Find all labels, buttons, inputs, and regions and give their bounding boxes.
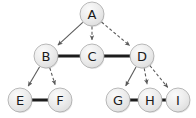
tree-edge-b-e: [28, 67, 39, 86]
tree-edge-a-b: [58, 22, 83, 45]
node-label-a: A: [88, 7, 97, 22]
tree-edge-b-f: [50, 68, 55, 85]
tree-edge-d-i: [150, 66, 168, 88]
tree-edge-a-d: [102, 22, 130, 46]
graph-node-c[interactable]: C: [80, 44, 104, 68]
node-label-i: I: [176, 93, 180, 108]
node-label-h: H: [145, 93, 155, 108]
graph-node-g[interactable]: G: [106, 88, 130, 112]
graph-node-d[interactable]: D: [130, 44, 154, 68]
node-label-f: F: [56, 93, 63, 108]
graph-node-i[interactable]: I: [166, 88, 190, 112]
node-label-b: B: [42, 49, 51, 64]
node-label-e: E: [16, 93, 24, 108]
graph-svg: ABCDEFGHI: [0, 0, 196, 118]
graph-node-e[interactable]: E: [8, 88, 32, 112]
graph-node-f[interactable]: F: [48, 88, 72, 112]
graph-node-b[interactable]: B: [34, 44, 58, 68]
tree-edge-d-h: [144, 68, 147, 84]
graph-node-h[interactable]: H: [138, 88, 162, 112]
tree-edge-d-g: [126, 67, 136, 86]
node-label-g: G: [113, 93, 123, 108]
node-label-c: C: [87, 49, 96, 64]
node-layer: ABCDEFGHI: [8, 2, 190, 112]
node-label-d: D: [137, 49, 147, 64]
diagram-canvas: ABCDEFGHI: [0, 0, 196, 118]
graph-node-a[interactable]: A: [80, 2, 104, 26]
